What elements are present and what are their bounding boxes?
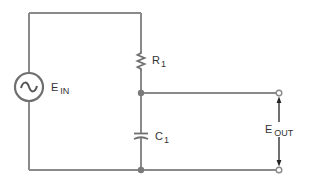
output-terminal-top [276, 90, 282, 96]
resistor-label: R1 [152, 55, 166, 66]
source-label: EIN [51, 82, 69, 93]
capacitor-label: C1 [155, 131, 169, 142]
output-label-main: E [265, 123, 272, 135]
resistor-label-sub: 1 [161, 59, 166, 69]
capacitor-label-main: C [155, 130, 163, 142]
capacitor-label-sub: 1 [164, 135, 169, 145]
resistor-label-main: R [152, 54, 160, 66]
ac-source-icon [15, 73, 43, 101]
source-label-sub: IN [60, 86, 69, 96]
junction-node-mid [138, 90, 144, 96]
source-label-main: E [51, 81, 58, 93]
output-terminal-bottom [276, 167, 282, 173]
junction-node-bottom [138, 167, 144, 173]
output-label-sub: OUT [274, 128, 293, 138]
resistor-r1-icon [138, 51, 145, 71]
rc-circuit-diagram [0, 0, 312, 184]
output-label: EOUT [265, 124, 293, 135]
